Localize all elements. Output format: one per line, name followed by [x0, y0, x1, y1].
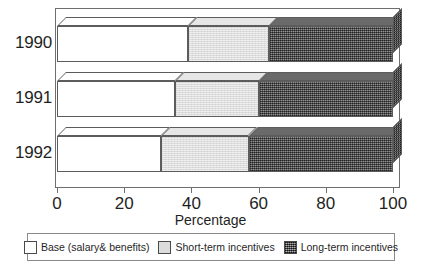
legend-item-short-term: Short-term incentives — [158, 241, 274, 254]
x-tick-label-60: 60 — [229, 194, 289, 214]
light-gray-swatch-icon — [158, 241, 171, 254]
x-tick-mark-20 — [124, 188, 125, 193]
bar-segment-1992-2 — [249, 136, 393, 172]
bar-side-face-1990 — [393, 8, 402, 53]
bar-top-face-1991-0 — [57, 72, 184, 81]
category-label-1991: 1991 — [4, 88, 52, 108]
category-label-1990: 1990 — [4, 33, 52, 53]
bar-segment-1990-2 — [269, 26, 393, 62]
bar-top-face-1992-1 — [161, 127, 257, 136]
white-swatch-icon — [24, 241, 37, 254]
x-tick-mark-40 — [191, 188, 192, 193]
x-tick-label-40: 40 — [161, 194, 221, 214]
x-tick-mark-60 — [259, 188, 260, 193]
bar-segment-1992-0 — [57, 136, 161, 172]
bar-segment-1991-1 — [175, 81, 259, 117]
bar-segment-1990-1 — [188, 26, 269, 62]
x-axis-title: Percentage — [0, 212, 421, 228]
legend-label-long-term: Long-term incentives — [301, 241, 398, 253]
x-tick-label-20: 20 — [94, 194, 154, 214]
dark-hatch-swatch-icon — [284, 241, 297, 254]
bar-segment-1991-2 — [259, 81, 393, 117]
x-tick-mark-100 — [393, 188, 394, 193]
legend-item-base: Base (salary& benefits) — [24, 241, 150, 254]
legend-item-long-term: Long-term incentives — [284, 241, 398, 254]
x-tick-label-80: 80 — [296, 194, 356, 214]
bar-top-face-1990-0 — [57, 17, 197, 26]
x-tick-mark-0 — [57, 188, 58, 193]
x-tick-mark-80 — [326, 188, 327, 193]
bar-top-face-1992-2 — [249, 127, 402, 136]
legend-label-short-term: Short-term incentives — [175, 241, 274, 253]
bar-segment-1991-0 — [57, 81, 175, 117]
bar-top-face-1991-2 — [259, 72, 402, 81]
x-tick-label-100: 100 — [363, 194, 421, 214]
category-label-1992: 1992 — [4, 143, 52, 163]
bar-top-face-1990-1 — [188, 17, 278, 26]
x-tick-label-0: 0 — [27, 194, 87, 214]
legend-label-base: Base (salary& benefits) — [41, 241, 150, 253]
bar-side-face-1991 — [393, 63, 402, 108]
bar-segment-1990-0 — [57, 26, 188, 62]
bar-top-face-1992-0 — [57, 127, 170, 136]
bar-top-face-1991-1 — [175, 72, 268, 81]
bar-top-face-1990-2 — [269, 17, 402, 26]
chart-legend: Base (salary& benefits) Short-term incen… — [27, 233, 395, 261]
stacked-bar-chart: 1990 1991 1992 020406080100 Percentage B… — [0, 0, 421, 271]
bar-segment-1992-1 — [161, 136, 248, 172]
bar-side-face-1992 — [393, 118, 402, 163]
